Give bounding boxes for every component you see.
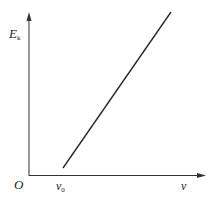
y-axis: [27, 12, 32, 176]
ek-nu-line: [63, 12, 171, 168]
x-axis-arrow-icon: [197, 173, 206, 178]
y-axis-arrow-icon: [27, 12, 32, 21]
x-axis: [29, 173, 206, 178]
threshold-frequency-label: ν0: [56, 180, 65, 194]
y-axis-label: Ek: [9, 27, 20, 42]
x-axis-label: ν: [181, 180, 186, 192]
origin-label: O: [14, 178, 23, 191]
chart-canvas: [0, 0, 216, 202]
